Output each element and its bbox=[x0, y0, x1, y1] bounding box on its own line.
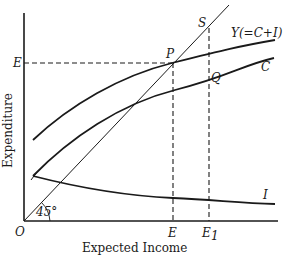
label-x-E1: E bbox=[201, 226, 211, 240]
label-point-Q: Q bbox=[211, 71, 221, 85]
45-degree-line bbox=[24, 5, 229, 221]
label-x-E: E bbox=[167, 226, 177, 240]
y-axis-label: Expenditure bbox=[1, 93, 15, 168]
expenditure-income-diagram: E P S Q Y(=C+I) C I 45° O E E 1 Expected… bbox=[0, 0, 283, 256]
label-curve-total: Y(=C+I) bbox=[231, 26, 283, 40]
curve-consumption bbox=[33, 58, 274, 176]
label-x-E1-subscript: 1 bbox=[211, 229, 219, 243]
label-angle-45: 45° bbox=[35, 205, 57, 219]
label-curve-investment: I bbox=[262, 188, 268, 202]
label-origin-O: O bbox=[15, 225, 25, 239]
label-y-E: E bbox=[12, 56, 22, 70]
curve-investment bbox=[33, 176, 275, 204]
x-axis-label: Expected Income bbox=[82, 241, 187, 255]
label-curve-consumption: C bbox=[261, 60, 270, 74]
curve-total-expenditure bbox=[33, 40, 275, 140]
label-point-P: P bbox=[165, 47, 175, 61]
axes bbox=[24, 13, 278, 221]
label-point-S: S bbox=[198, 16, 206, 30]
